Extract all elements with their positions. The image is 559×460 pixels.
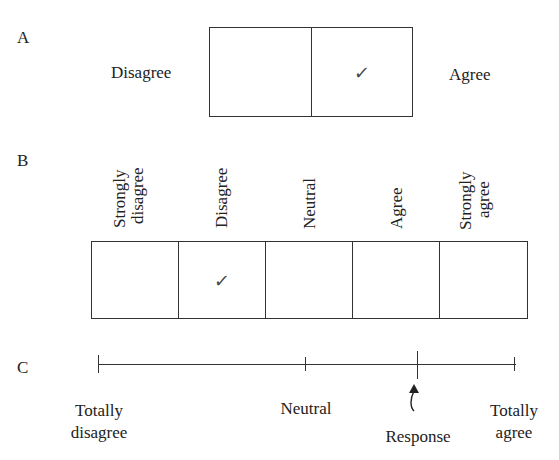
scale-tick-response[interactable] xyxy=(417,351,418,379)
checkmark-icon: ✓ xyxy=(213,270,231,291)
section-b-letter: B xyxy=(17,151,28,171)
binary-option-agree[interactable]: ✓ xyxy=(311,28,412,116)
likert-scale-box: ✓ xyxy=(91,241,528,319)
section-a-right-label: Agree xyxy=(449,66,491,83)
scale-left-label: Totally disagree xyxy=(71,400,128,444)
likert-option-disagree[interactable]: ✓ xyxy=(178,242,265,318)
scale-response-label: Response xyxy=(385,428,450,445)
likert-label-strongly-disagree: Strongly disagree xyxy=(111,167,147,228)
binary-option-disagree[interactable] xyxy=(210,28,311,116)
likert-label-neutral: Neutral xyxy=(301,178,319,229)
section-a-letter: A xyxy=(17,28,29,48)
section-c-letter: C xyxy=(17,358,28,378)
scale-tick-right xyxy=(514,357,515,371)
response-arrow-icon xyxy=(405,383,425,415)
likert-option-neutral[interactable] xyxy=(265,242,352,318)
likert-option-agree[interactable] xyxy=(352,242,439,318)
scale-tick-neutral xyxy=(305,357,306,371)
likert-label-agree: Agree xyxy=(388,187,406,229)
binary-scale-box: ✓ xyxy=(209,27,413,117)
visual-analog-scale-line[interactable] xyxy=(99,364,516,365)
checkmark-icon: ✓ xyxy=(353,62,371,83)
scale-middle-label: Neutral xyxy=(281,400,332,417)
likert-option-strongly-agree[interactable] xyxy=(439,242,527,318)
section-a-left-label: Disagree xyxy=(111,64,171,81)
likert-label-strongly-agree: Strongly agree xyxy=(457,171,493,230)
likert-label-disagree: Disagree xyxy=(213,168,231,228)
scale-right-label: Totally agree xyxy=(490,400,538,444)
scale-tick-left xyxy=(98,355,99,373)
likert-option-strongly-disagree[interactable] xyxy=(92,242,178,318)
